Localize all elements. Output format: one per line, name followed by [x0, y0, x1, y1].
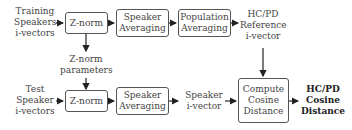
training-ivectors-label: Training Speakers i-vectors: [14, 6, 56, 39]
cosine-distance-output-label: HC/PD Cosine Distance: [300, 84, 346, 117]
compute-cosine-distance-box: Compute Cosine Distance: [238, 78, 289, 123]
population-averaging-box: Population Averaging: [178, 9, 231, 37]
reference-ivector-label: HC/PD Reference i-vector: [240, 9, 286, 42]
test-ivectors-label: Test Speaker i-vectors: [14, 84, 56, 117]
znorm-box-bottom: Z-norm: [65, 90, 108, 112]
speaker-averaging-box-bottom: Speaker Averaging: [116, 87, 169, 115]
speaker-ivector-label: Speaker i-vector: [184, 90, 224, 112]
znorm-parameters-label: Z-norm parameters: [60, 54, 112, 76]
speaker-averaging-box-top: Speaker Averaging: [116, 9, 169, 37]
znorm-box-top: Z-norm: [65, 12, 108, 34]
